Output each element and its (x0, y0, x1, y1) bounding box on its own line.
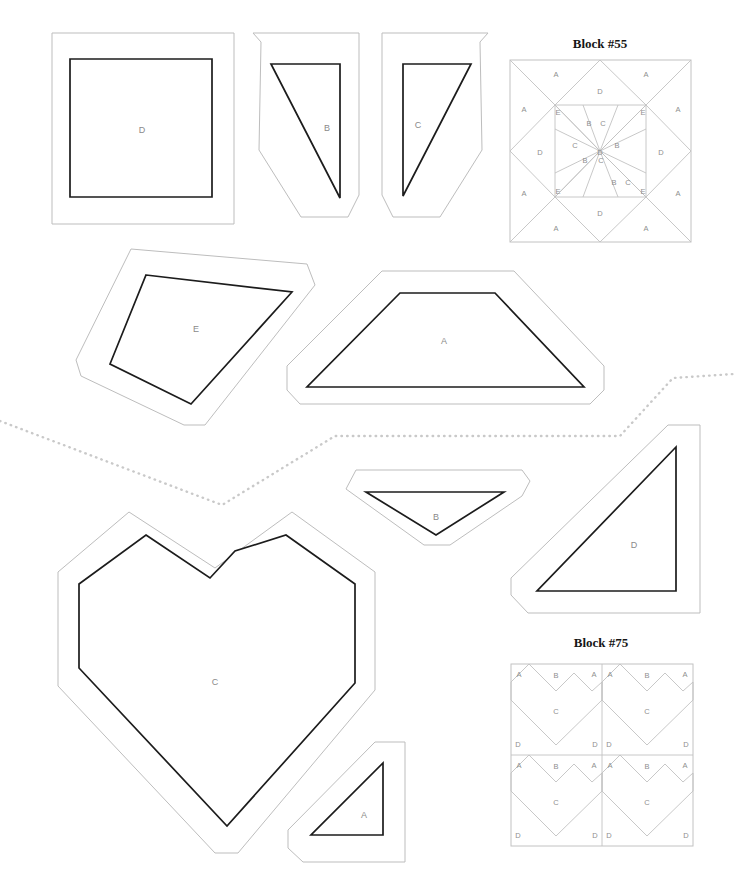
template-piece-b-inverted-triangle[interactable]: B (346, 470, 530, 545)
svg-text:A: A (607, 761, 612, 770)
svg-text:C: C (553, 707, 559, 716)
piece-label: D (139, 125, 146, 135)
cut-line (403, 64, 471, 196)
cut-line (311, 763, 383, 835)
svg-text:C: C (600, 119, 606, 128)
svg-text:A: A (643, 70, 648, 79)
svg-text:D: D (537, 148, 543, 157)
block-diagram-75[interactable]: A B A C D D A B A C D D A B A C D D (511, 664, 693, 846)
piece-label: B (324, 123, 330, 133)
svg-text:D: D (683, 831, 689, 840)
svg-text:A: A (682, 761, 687, 770)
svg-text:D: D (606, 740, 612, 749)
piece-label: E (193, 324, 199, 334)
svg-text:A: A (591, 761, 596, 770)
svg-text:E: E (555, 187, 560, 196)
pattern-artwork: D B C E (0, 0, 734, 882)
template-piece-a-trapezoid[interactable]: A (287, 271, 604, 404)
svg-text:E: E (640, 108, 645, 117)
piece-label: C (212, 677, 219, 687)
page-division-dotted-line (0, 374, 734, 505)
svg-text:A: A (675, 189, 680, 198)
block-title-75: Block #75 (574, 635, 629, 650)
svg-text:D: D (515, 831, 521, 840)
svg-text:C: C (644, 707, 650, 716)
piece-label: A (441, 336, 447, 346)
piece-label: A (361, 810, 367, 820)
template-piece-d-square[interactable]: D (52, 33, 234, 224)
svg-text:B: B (586, 119, 591, 128)
svg-text:C: C (572, 141, 578, 150)
svg-text:A: A (675, 105, 680, 114)
svg-text:A: A (521, 189, 526, 198)
svg-text:B: B (644, 762, 649, 771)
svg-text:C: C (598, 156, 604, 165)
svg-text:C: C (625, 178, 631, 187)
svg-text:D: D (683, 740, 689, 749)
svg-text:B: B (614, 141, 619, 150)
svg-text:A: A (553, 224, 558, 233)
template-piece-d-right-triangle[interactable]: D (511, 425, 700, 613)
cut-line (110, 275, 292, 404)
cut-line (537, 447, 676, 591)
svg-text:A: A (553, 70, 558, 79)
svg-text:A: A (591, 670, 596, 679)
svg-text:B: B (644, 671, 649, 680)
svg-text:E: E (640, 187, 645, 196)
template-group-block-55: D B C E (52, 33, 604, 425)
piece-label: B (433, 512, 439, 522)
svg-text:D: D (597, 209, 603, 218)
svg-text:D: D (592, 740, 598, 749)
template-piece-c-triangle[interactable]: C (382, 33, 488, 217)
svg-text:A: A (516, 670, 521, 679)
svg-text:A: A (643, 224, 648, 233)
svg-text:E: E (555, 108, 560, 117)
template-piece-a-right-triangle[interactable]: A (288, 742, 405, 862)
svg-text:C: C (644, 798, 650, 807)
svg-text:D: D (515, 740, 521, 749)
svg-text:D: D (592, 831, 598, 840)
block-title-55: Block #55 (573, 36, 628, 51)
template-piece-b-triangle[interactable]: B (253, 33, 359, 217)
svg-text:A: A (607, 670, 612, 679)
template-piece-c-heart[interactable]: C (58, 512, 375, 853)
svg-text:A: A (682, 670, 687, 679)
piece-label: C (415, 120, 422, 130)
svg-text:B: B (553, 671, 558, 680)
svg-text:D: D (658, 148, 664, 157)
template-piece-e-quadrilateral[interactable]: E (76, 249, 315, 425)
quilt-template-sheet: D B C E (0, 0, 734, 882)
svg-text:C: C (553, 798, 559, 807)
svg-text:B: B (582, 156, 587, 165)
svg-text:D: D (597, 148, 603, 157)
svg-text:A: A (516, 761, 521, 770)
svg-text:A: A (521, 105, 526, 114)
piece-label: D (631, 540, 638, 550)
svg-text:D: D (597, 87, 603, 96)
block-diagram-55[interactable]: A A A A A A A A B B B B C C C C D D D D (510, 60, 691, 242)
svg-text:D: D (606, 831, 612, 840)
svg-text:B: B (611, 178, 616, 187)
svg-text:B: B (553, 762, 558, 771)
